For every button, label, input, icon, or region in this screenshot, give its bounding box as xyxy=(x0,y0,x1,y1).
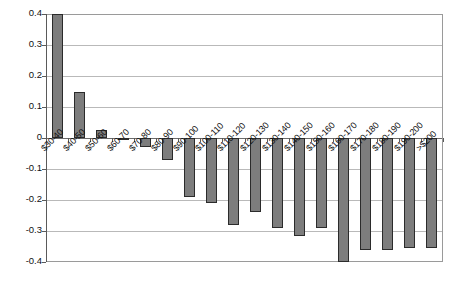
y-tick-label: 0.4 xyxy=(0,7,42,18)
y-tick-label: 0.3 xyxy=(0,38,42,49)
bar xyxy=(206,138,217,203)
y-tick-label: 0.2 xyxy=(0,69,42,80)
bar-chart: 0.40.30.20.10-0.1-0.2-0.3-0.4 $30-40$40-… xyxy=(0,0,459,282)
bar xyxy=(426,138,437,248)
bar xyxy=(52,14,63,138)
y-tick-label: 0.1 xyxy=(0,100,42,111)
bar xyxy=(360,138,371,250)
y-tick-label: -0.3 xyxy=(0,224,42,235)
bar xyxy=(404,138,415,248)
y-tick-label: -0.1 xyxy=(0,162,42,173)
bar xyxy=(250,138,261,212)
bar xyxy=(228,138,239,225)
bar xyxy=(294,138,305,236)
y-tick-label: -0.2 xyxy=(0,193,42,204)
bar xyxy=(382,138,393,250)
y-tick-mark xyxy=(42,262,46,263)
bar xyxy=(316,138,327,228)
x-tick-mark xyxy=(443,138,444,142)
bar xyxy=(338,138,349,262)
bar xyxy=(272,138,283,228)
y-tick-label: 0 xyxy=(0,131,42,142)
y-tick-label: -0.4 xyxy=(0,255,42,266)
